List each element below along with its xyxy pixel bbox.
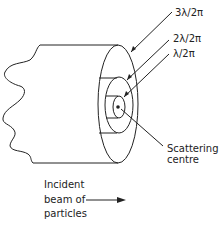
label-particles: particles <box>44 208 87 219</box>
label-scattering: Scattering <box>167 143 219 154</box>
arrowhead-3 <box>131 46 136 52</box>
leader-3 <box>131 12 172 52</box>
arrowhead-1 <box>124 91 129 97</box>
beam-arrowhead <box>117 197 126 203</box>
cylinder-wavy-edge <box>3 45 40 163</box>
label-centre: centre <box>167 154 199 165</box>
scattering-diagram: 3λ/2π 2λ/2π λ/2π Scattering centre Incid… <box>0 0 223 229</box>
label-incident: Incident <box>44 179 84 190</box>
outer-ring <box>98 45 138 163</box>
label-2-lambda: 2λ/2π <box>173 33 201 44</box>
label-1-lambda: λ/2π <box>173 48 195 59</box>
label-beam-of: beam of <box>44 194 86 205</box>
middle-ring <box>105 77 133 133</box>
leader-1 <box>124 54 169 97</box>
scattering-centre-dot <box>116 105 120 109</box>
arrowhead-2 <box>127 74 132 80</box>
label-3-lambda: 3λ/2π <box>175 7 203 18</box>
